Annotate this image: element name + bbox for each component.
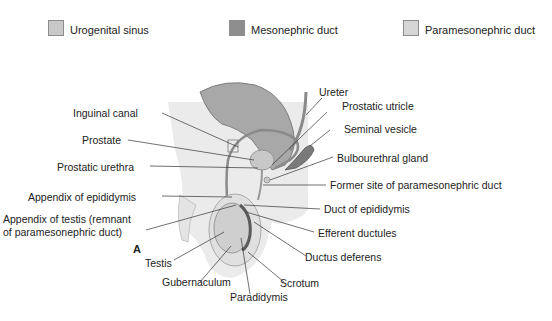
label-prostatic-utricle: Prostatic utricle [342, 100, 414, 112]
bulbourethral-gland [264, 177, 270, 183]
label-scrotum: Scrotum [280, 277, 319, 289]
label-efferent-ductules: Efferent ductules [318, 227, 397, 239]
label-appendix-testis-line2: of paramesonephric duct) [3, 226, 122, 238]
label-ductus-deferens: Ductus deferens [305, 251, 381, 263]
label-inguinal-canal: Inguinal canal [73, 107, 138, 119]
label-duct-epididymis: Duct of epididymis [324, 203, 410, 215]
label-ureter: Ureter [319, 86, 348, 98]
panel-letter: A [133, 243, 141, 255]
label-prostatic-urethra: Prostatic urethra [57, 161, 134, 173]
label-testis: Testis [145, 257, 172, 269]
label-prostate: Prostate [82, 134, 121, 146]
label-appendix-testis-line1: Appendix of testis (remnant [3, 213, 131, 225]
label-former-site: Former site of paramesonephric duct [330, 179, 502, 191]
label-bulbourethral-gland: Bulbourethral gland [337, 152, 428, 164]
label-seminal-vesicle: Seminal vesicle [344, 123, 417, 135]
label-paradidymis: Paradidymis [230, 291, 288, 303]
label-gubernaculum: Gubernaculum [162, 276, 231, 288]
label-appendix-epididymis: Appendix of epididymis [28, 191, 136, 203]
